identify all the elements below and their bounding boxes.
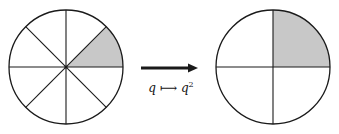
left-circle-eighths [9, 10, 123, 124]
center-dot [64, 65, 67, 68]
mapsto-arrow: ⟼ [160, 81, 177, 95]
label-result: q [181, 81, 189, 95]
shaded-octant [66, 27, 123, 67]
map-arrow [141, 64, 198, 73]
shaded-quadrant [273, 10, 330, 67]
diagram-canvas [0, 0, 339, 134]
right-circle-quarters [216, 10, 330, 124]
label-exponent: 2 [189, 80, 194, 89]
map-label: q ⟼ q2 [140, 80, 202, 95]
label-variable: q [148, 81, 156, 95]
